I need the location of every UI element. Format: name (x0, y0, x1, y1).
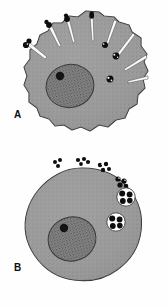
bacterium (113, 53, 120, 60)
bacteria-cluster (76, 157, 90, 166)
bacterium (64, 13, 70, 22)
nucleolus-b (60, 224, 68, 232)
bacteria-cluster (53, 158, 62, 168)
phagosome-2 (107, 213, 125, 231)
figure-phagocytosis: A (0, 0, 168, 307)
bacterium (119, 191, 125, 197)
vacuole-membrane (107, 213, 125, 231)
bacterium (109, 216, 115, 222)
bacterium (120, 198, 126, 204)
panel-b: B (0, 152, 168, 307)
bacterium (127, 192, 133, 198)
panel-a: A (0, 0, 168, 152)
vacuole-membrane (117, 188, 135, 206)
bacterium (127, 198, 133, 204)
bacterium (107, 76, 114, 83)
panel-label-b: B (14, 263, 21, 273)
bacterium (117, 217, 123, 223)
bacterium (89, 12, 94, 19)
bacterium (44, 20, 52, 28)
nucleolus-a (56, 72, 64, 80)
phagosome-1 (117, 188, 135, 206)
bacterium (110, 223, 116, 229)
panel-b-drawing (0, 152, 168, 307)
bacterium (117, 223, 123, 229)
panel-a-drawing (0, 0, 168, 152)
panel-label-a: A (14, 110, 21, 120)
bacterium (102, 42, 108, 48)
